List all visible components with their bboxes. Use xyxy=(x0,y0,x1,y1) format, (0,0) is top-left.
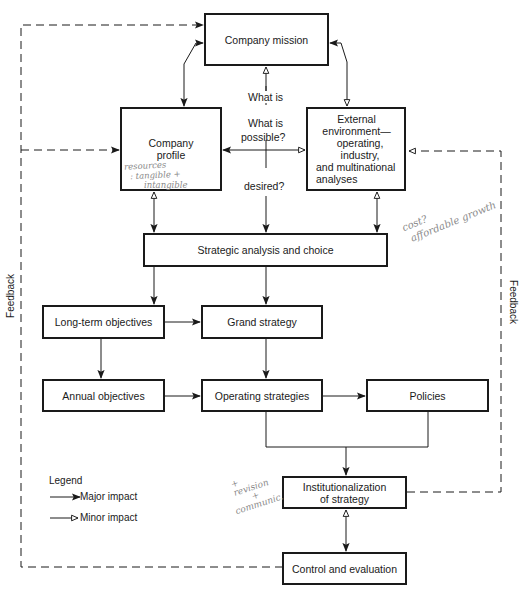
legend-minor-label: Minor impact xyxy=(80,512,137,524)
box-company-mission-label: Company mission xyxy=(225,34,308,46)
box-company-mission: Company mission xyxy=(204,13,329,66)
institutionalization-line-2: of strategy xyxy=(320,493,369,505)
legend-major-label: Major impact xyxy=(80,491,137,503)
box-control-evaluation: Control and evaluation xyxy=(282,552,407,585)
box-policies: Policies xyxy=(366,379,489,412)
label-what-is-possible-1: What is xyxy=(248,117,283,129)
box-operating-strategies: Operating strategies xyxy=(201,379,323,412)
external-line-2: operating, industry, xyxy=(308,137,404,161)
box-annual-objectives-label: Annual objectives xyxy=(62,390,144,402)
connector-mission-external xyxy=(330,43,347,106)
connector-join xyxy=(266,412,428,447)
box-grand-strategy-label: Grand strategy xyxy=(227,316,296,328)
box-strategic-analysis: Strategic analysis and choice xyxy=(143,233,388,267)
legend-title: Legend xyxy=(49,475,82,487)
box-long-term-objectives: Long-term objectives xyxy=(42,305,165,339)
box-external-environment: External environment— operating, industr… xyxy=(306,107,406,191)
box-institutionalization: Institutionalization of strategy xyxy=(282,476,407,509)
label-what-is: What is xyxy=(248,91,283,103)
external-line-4: analyses xyxy=(308,173,357,185)
label-desired: desired? xyxy=(244,180,284,192)
box-grand-strategy: Grand strategy xyxy=(201,305,323,339)
box-control-evaluation-label: Control and evaluation xyxy=(292,563,397,575)
box-annual-objectives: Annual objectives xyxy=(42,379,165,412)
box-long-term-objectives-label: Long-term objectives xyxy=(55,316,152,328)
handwritten-profile-note: resources : tangible + intangible xyxy=(124,160,188,190)
box-strategic-analysis-label: Strategic analysis and choice xyxy=(198,244,334,256)
institutionalization-line-1: Institutionalization xyxy=(303,481,386,493)
external-line-1: External environment— xyxy=(308,113,405,137)
label-feedback-right: Feedback xyxy=(507,279,519,325)
box-company-profile-label: Company profile xyxy=(146,137,196,161)
external-line-3: and multinational xyxy=(308,161,395,173)
box-operating-strategies-label: Operating strategies xyxy=(215,390,310,402)
label-feedback-left: Feedback xyxy=(5,273,17,319)
box-policies-label: Policies xyxy=(409,390,445,402)
connector-mission-profile xyxy=(184,43,203,106)
label-what-is-possible-2: possible? xyxy=(241,131,285,143)
